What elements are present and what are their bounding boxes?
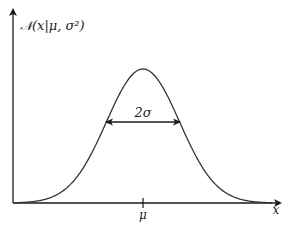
y-axis-label: 𝒩(x|μ, σ²): [20, 18, 85, 33]
gaussian-curve: [15, 69, 272, 203]
mean-label: μ: [139, 208, 147, 222]
gaussian-diagram: 𝒩(x|μ, σ²) 2σ μ x: [0, 0, 289, 225]
x-axis-label: x: [273, 203, 280, 217]
width-annotation: 2σ: [133, 105, 152, 120]
